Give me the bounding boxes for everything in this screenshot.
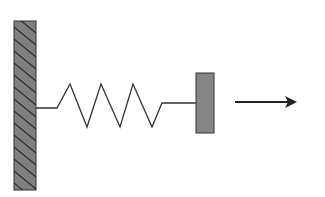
arrow-right-icon (235, 96, 297, 108)
spring-mass-diagram (0, 0, 325, 197)
wall-body (14, 21, 36, 190)
wall (14, 0, 36, 197)
block-mass (196, 73, 214, 133)
spring (36, 84, 196, 127)
